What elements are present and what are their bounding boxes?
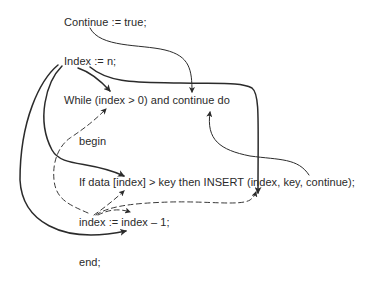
code-line-decrement: index := index – 1; [79, 216, 170, 228]
dataflow-arrows [0, 0, 372, 290]
code-line-continue-init: Continue := true; [64, 16, 147, 28]
edge-index-to-while [78, 68, 110, 91]
edge-decrement-to-data-index [94, 191, 124, 215]
code-line-if-insert: If data [index] > key then INSERT (index… [79, 176, 355, 188]
edge-decrement-to-while [54, 109, 106, 213]
edge-insert-continue-to-while [209, 112, 309, 175]
edge-decrement-to-insert [96, 192, 256, 215]
code-line-end: end; [79, 256, 101, 268]
code-line-begin: begin [79, 135, 106, 147]
edge-decrement-to-decrement [98, 210, 130, 215]
diagram-canvas: Continue := true; Index := n; While (ind… [0, 0, 372, 290]
code-line-while: While (index > 0) and continue do [64, 94, 230, 106]
code-line-index-init: Index := n; [64, 55, 116, 67]
edge-index-to-insert [90, 67, 258, 193]
